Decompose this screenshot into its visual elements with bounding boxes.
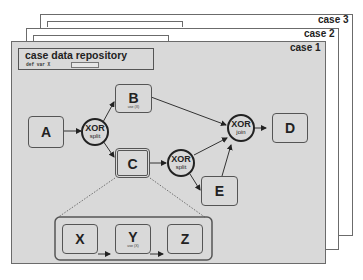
gateway-type: XOR — [229, 120, 253, 129]
gateway-kind: join — [229, 129, 253, 135]
task-e-label: E — [202, 183, 237, 199]
gateway-type: XOR — [169, 155, 193, 164]
gateway-kind: split — [169, 164, 193, 170]
task-z[interactable]: Z — [167, 224, 203, 254]
task-a[interactable]: A — [28, 116, 64, 148]
task-b-label: B — [116, 90, 151, 106]
task-c-label: C — [118, 156, 147, 172]
task-y[interactable]: Y use (X) — [115, 224, 151, 254]
task-x-label: X — [63, 231, 97, 247]
task-x[interactable]: X — [62, 224, 98, 254]
task-z-label: Z — [168, 231, 202, 247]
task-a-label: A — [29, 124, 63, 140]
task-y-label: Y — [116, 229, 150, 245]
task-e[interactable]: E — [201, 176, 238, 206]
gateway-type: XOR — [83, 124, 107, 133]
task-d-label: D — [273, 120, 307, 136]
task-d[interactable]: D — [272, 113, 308, 143]
gateway-kind: split — [83, 133, 107, 139]
task-b[interactable]: B use (X) — [115, 84, 152, 113]
gateway-xor-join[interactable]: XOR join — [227, 114, 255, 142]
task-y-sub: use (X) — [116, 244, 150, 248]
task-c[interactable]: C — [115, 148, 150, 178]
gateway-xor-split-2[interactable]: XOR split — [167, 149, 195, 177]
gateway-xor-split-1[interactable]: XOR split — [81, 118, 109, 146]
task-b-sub: use (X) — [116, 105, 151, 109]
